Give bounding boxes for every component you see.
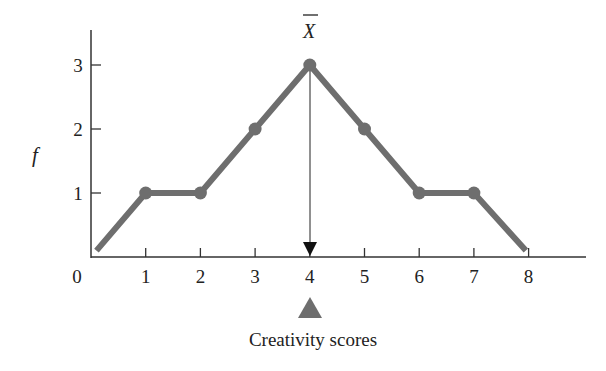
- data-point: [467, 187, 480, 200]
- data-point: [413, 187, 426, 200]
- balance-triangle-icon: [298, 297, 322, 318]
- frequency-line: [96, 65, 525, 251]
- x-ticks: 012345678: [72, 248, 533, 287]
- y-axis-label: f: [32, 143, 41, 167]
- y-tick-label: 2: [73, 119, 83, 140]
- x-tick-label: 7: [469, 266, 479, 287]
- x-tick-label: 5: [360, 266, 370, 287]
- y-tick-label: 1: [73, 183, 83, 204]
- mean-label: X: [302, 20, 316, 42]
- arrow-down-icon: [303, 242, 317, 256]
- y-ticks: 123: [73, 55, 101, 204]
- x-tick-label: 4: [305, 266, 315, 287]
- mean-marker: X: [302, 15, 318, 256]
- data-point: [249, 123, 262, 136]
- y-tick-label: 3: [73, 55, 83, 76]
- data-point: [303, 59, 316, 72]
- data-point: [358, 123, 371, 136]
- axes: [91, 30, 586, 258]
- data-point: [194, 187, 207, 200]
- x-tick-label: 8: [524, 266, 534, 287]
- x-axis-title: Creativity scores: [249, 329, 377, 350]
- x-tick-label: 2: [196, 266, 206, 287]
- frequency-polygon-chart: 123 012345678 f X Creativity scores: [0, 0, 606, 371]
- x-tick-label: 1: [141, 266, 151, 287]
- x-tick-label: 6: [414, 266, 424, 287]
- data-point: [139, 187, 152, 200]
- x-tick-label: 0: [72, 266, 82, 287]
- x-tick-label: 3: [250, 266, 260, 287]
